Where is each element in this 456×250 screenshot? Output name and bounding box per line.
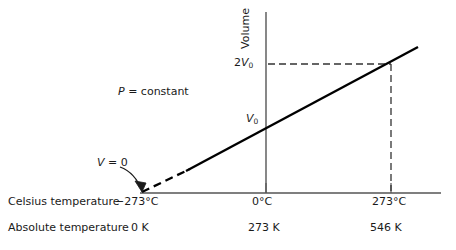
absolute-temperature-row-label: Absolute temperature [8, 222, 129, 234]
celsius-temperature-row-label: Celsius temperature [8, 196, 120, 208]
y-tick-2v0-text: 2 [234, 56, 241, 69]
volume-line-solid [186, 47, 418, 171]
y-tick-2v0-subscript: 0 [249, 61, 254, 70]
volume-line-extrapolated [142, 169, 190, 192]
volume-zero-equals: = 0 [105, 156, 128, 169]
y-tick-v0-subscript: 0 [254, 117, 259, 126]
y-tick-label-2v0: 2V0 [234, 57, 253, 69]
y-tick-2v0-symbol: V [241, 56, 249, 69]
pressure-symbol: P [118, 85, 125, 98]
charles-law-figure: Volume 2V0 V0 P = constant V = 0 Celsius… [0, 0, 456, 250]
y-axis-title: Volume [240, 8, 252, 49]
pressure-equals-constant: = constant [125, 85, 189, 98]
kelvin-tick-label-273: 273 K [248, 222, 280, 234]
kelvin-tick-label-0: 0 K [131, 222, 149, 234]
volume-zero-symbol: V [97, 156, 105, 169]
volume-zero-annotation: V = 0 [97, 157, 128, 169]
celsius-tick-label-273: 273°C [372, 196, 406, 208]
celsius-tick-label-minus273: −273°C [115, 196, 158, 208]
celsius-tick-label-0: 0°C [252, 196, 272, 208]
kelvin-tick-label-546: 546 K [370, 222, 402, 234]
y-tick-v0-symbol: V [246, 112, 254, 125]
pressure-constant-annotation: P = constant [118, 86, 189, 98]
plot-canvas [0, 0, 456, 250]
y-tick-label-v0: V0 [246, 113, 258, 125]
